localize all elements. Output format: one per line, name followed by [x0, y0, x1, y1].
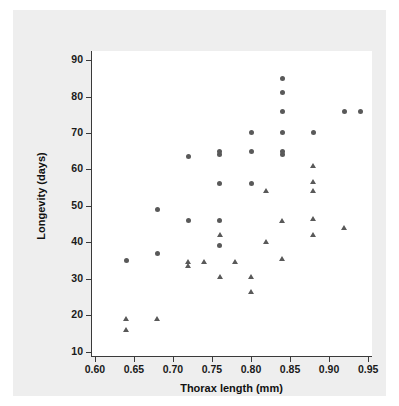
y-tick-label-wrap: 60	[53, 163, 83, 175]
data-point-triangle	[248, 289, 254, 294]
y-tick	[86, 242, 91, 243]
y-tick	[86, 97, 91, 98]
data-point-triangle	[248, 274, 254, 279]
data-point-triangle	[310, 232, 316, 237]
y-tick-label-wrap: 40	[53, 236, 83, 248]
data-point-circle	[280, 149, 285, 154]
data-point-triangle	[123, 316, 129, 321]
data-point-triangle	[201, 259, 207, 264]
chart-panel: 102030405060708090 0.600.650.700.750.800…	[13, 10, 386, 396]
data-point-circle	[280, 109, 285, 114]
y-tick	[86, 169, 91, 170]
x-tick	[251, 357, 252, 362]
data-point-triangle	[217, 274, 223, 279]
data-point-triangle	[217, 232, 223, 237]
data-point-triangle	[185, 259, 191, 264]
y-tick-label-wrap: 30	[53, 273, 83, 285]
data-point-triangle	[310, 188, 316, 193]
data-point-triangle	[263, 188, 269, 193]
y-tick-label-wrap: 70	[53, 127, 83, 139]
y-tick-label: 10	[57, 346, 83, 357]
data-point-circle	[358, 109, 363, 114]
data-point-triangle	[279, 218, 285, 223]
figure: 102030405060708090 0.600.650.700.750.800…	[0, 0, 399, 406]
data-point-circle	[280, 76, 285, 81]
x-tick	[290, 357, 291, 362]
data-point-triangle	[310, 163, 316, 168]
y-tick-label-wrap: 50	[53, 200, 83, 212]
data-point-triangle	[279, 256, 285, 261]
y-tick	[86, 352, 91, 353]
y-tick-label-wrap: 80	[53, 91, 83, 103]
plot-area	[91, 51, 372, 357]
data-point-triangle	[310, 179, 316, 184]
data-point-circle	[124, 258, 129, 263]
data-point-circle	[186, 218, 191, 223]
data-point-triangle	[341, 225, 347, 230]
data-point-triangle	[232, 259, 238, 264]
data-point-circle	[249, 149, 254, 154]
y-tick	[86, 133, 91, 134]
data-point-circle	[155, 207, 160, 212]
x-axis-label: Thorax length (mm)	[91, 382, 372, 394]
data-point-circle	[155, 251, 160, 256]
y-tick-label: 70	[57, 127, 83, 138]
y-axis-label: Longevity (days)	[35, 106, 47, 286]
y-tick	[86, 60, 91, 61]
y-tick-label: 20	[57, 309, 83, 320]
data-point-triangle	[154, 316, 160, 321]
x-tick-label: 0.95	[345, 364, 391, 375]
y-axis-line	[91, 51, 92, 357]
y-tick-label: 80	[57, 91, 83, 102]
x-tick	[329, 357, 330, 362]
data-point-triangle	[310, 216, 316, 221]
x-tick	[212, 357, 213, 362]
data-point-circle	[217, 149, 222, 154]
y-tick	[86, 315, 91, 316]
y-tick-label: 50	[57, 200, 83, 211]
y-tick-label: 90	[57, 54, 83, 65]
y-tick-label: 60	[57, 163, 83, 174]
y-tick	[86, 279, 91, 280]
y-tick-label-wrap: 20	[53, 309, 83, 321]
x-tick	[134, 357, 135, 362]
data-point-triangle	[123, 327, 129, 332]
y-tick-label: 40	[57, 236, 83, 247]
x-tick	[368, 357, 369, 362]
data-point-triangle	[263, 239, 269, 244]
x-tick	[173, 357, 174, 362]
y-tick-label-wrap: 90	[53, 54, 83, 66]
y-tick-label-wrap: 10	[53, 346, 83, 358]
data-point-circle	[342, 109, 347, 114]
y-tick	[86, 206, 91, 207]
x-tick	[95, 357, 96, 362]
y-tick-label: 30	[57, 273, 83, 284]
